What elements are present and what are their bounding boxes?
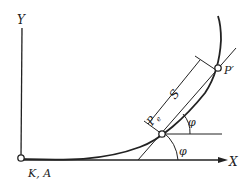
angle-label-upper: φ — [188, 116, 196, 129]
origin-label: K, A — [27, 167, 51, 180]
point-p-prime — [215, 65, 221, 71]
y-axis — [21, 28, 22, 158]
p-prime-label: P′ — [223, 64, 234, 77]
angle-arc-lower — [163, 132, 178, 160]
origin-point — [18, 155, 24, 161]
diagram-canvas: Y X K, A P′ Pe S φ φ — [0, 0, 248, 181]
s-dimension-label: S — [166, 87, 182, 102]
point-pe — [159, 131, 165, 137]
y-axis-label: Y — [17, 13, 26, 27]
angle-label-lower: φ — [179, 145, 187, 158]
x-axis-label: X — [228, 155, 238, 169]
tangent-line — [138, 48, 236, 160]
pe-label: Pe — [144, 111, 164, 130]
spiral-curve — [21, 16, 221, 160]
x-axis-arrow-icon — [218, 157, 228, 163]
